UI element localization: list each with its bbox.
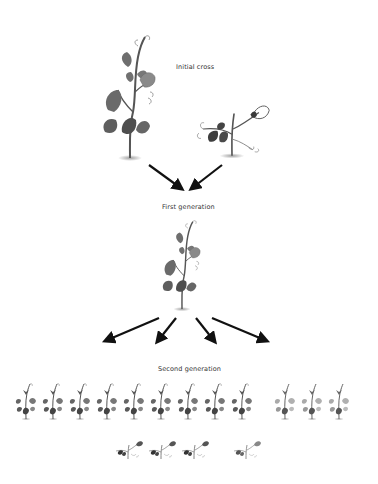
f2-plant-tall-dark (43, 384, 63, 420)
arrows-to-second-generation (105, 318, 267, 342)
arrows-to-first-generation (149, 165, 222, 189)
label-first-generation: First generation (162, 203, 215, 211)
f2-plant-tall-dark (124, 384, 144, 420)
f2-plant-tall-dark (16, 384, 36, 420)
f2-plant-tall-dark (151, 384, 171, 420)
first-generation-plant (163, 221, 200, 312)
f2-plant-tall-dark (70, 384, 90, 420)
diagram-canvas (0, 0, 378, 484)
f2-plant-tall-light (329, 384, 349, 420)
f2-plant-tall-dark (205, 384, 225, 420)
f2-plant-tall-dark (178, 384, 198, 420)
f2-plant-tall-light (275, 384, 295, 420)
f2-plant-tall-dark (97, 384, 117, 420)
parent-plant-tall (103, 36, 155, 161)
label-initial-cross: Initial cross (176, 63, 214, 71)
label-second-generation: Second generation (158, 365, 221, 373)
parent-plant-short (197, 106, 269, 158)
second-generation-row-2 (116, 441, 261, 459)
second-generation-row-1 (16, 384, 349, 420)
f2-plant-short-dark (182, 441, 209, 459)
f2-plant-tall-light (302, 384, 322, 420)
f2-plant-short-dark (149, 441, 176, 459)
mendel-cross-diagram: Initial cross First generation Second ge… (0, 0, 378, 484)
f2-plant-short-light (234, 441, 261, 459)
f2-plant-tall-dark (232, 384, 252, 420)
f2-plant-short-dark (116, 441, 143, 459)
